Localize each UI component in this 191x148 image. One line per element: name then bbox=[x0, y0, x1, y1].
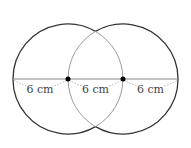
segment-label-1: 6 cm bbox=[26, 83, 54, 96]
right-center-point bbox=[121, 77, 126, 82]
segment-label-3: 6 cm bbox=[137, 83, 165, 96]
left-center-point bbox=[66, 77, 71, 82]
segment-label-2: 6 cm bbox=[82, 83, 110, 96]
two-circles-diagram: 6 cm 6 cm 6 cm bbox=[0, 0, 191, 148]
